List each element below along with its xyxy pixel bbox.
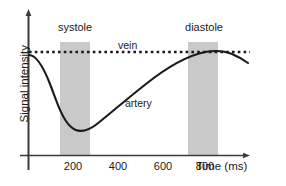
shaded-band-diastole — [188, 42, 218, 155]
band-label-systole: systole — [50, 22, 100, 33]
x-axis-arrowhead — [243, 153, 250, 158]
x-tick-label-400: 400 — [100, 161, 136, 172]
band-label-diastole: diastole — [177, 22, 231, 33]
x-tick-label-200: 200 — [55, 161, 91, 172]
series-label-artery: artery — [125, 98, 152, 109]
chart-plot-area — [0, 0, 286, 186]
x-tick-label-600: 600 — [145, 161, 181, 172]
y-axis-title: Signal intensity — [19, 29, 31, 139]
y-axis-arrowhead — [26, 9, 32, 16]
shaded-band-systole — [60, 42, 90, 155]
chart-figure: Signal intensity Time (ms) 200 400 600 8… — [0, 0, 286, 186]
x-tick-label-800: 800 — [187, 161, 223, 172]
series-label-vein: vein — [118, 40, 137, 51]
